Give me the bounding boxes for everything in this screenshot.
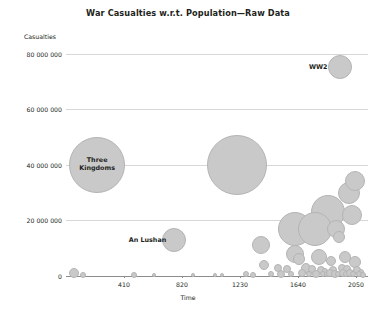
- x-tick-label: 1640: [290, 281, 306, 288]
- data-point-bubble[interactable]: [162, 228, 186, 252]
- data-point-bubble[interactable]: [288, 271, 294, 277]
- x-tick-mark: [182, 276, 183, 278]
- data-point-bubble[interactable]: [342, 205, 362, 225]
- data-point-bubble[interactable]: [326, 256, 336, 266]
- data-point-bubble[interactable]: [131, 272, 137, 278]
- data-point-bubble[interactable]: [69, 137, 125, 193]
- y-tick-label: 60 000 000: [0, 106, 62, 113]
- x-tick-label: 2050: [348, 281, 364, 288]
- data-point-bubble[interactable]: [250, 272, 256, 278]
- data-point-bubble[interactable]: [328, 55, 352, 79]
- y-tick-label: 0: [0, 273, 62, 280]
- data-point-bubble[interactable]: [298, 269, 306, 277]
- data-point-bubble[interactable]: [360, 272, 366, 278]
- y-tick-label: 40 000 000: [0, 161, 62, 168]
- data-point-bubble[interactable]: [252, 236, 270, 254]
- gridline: [66, 54, 368, 55]
- data-point-bubble[interactable]: [220, 273, 224, 277]
- data-point-bubble[interactable]: [69, 268, 79, 278]
- chart-title: War Casualties w.r.t. Population—Raw Dat…: [0, 8, 376, 18]
- y-axis-title: Casualties: [24, 33, 56, 40]
- x-tick-mark: [124, 276, 125, 278]
- data-point-bubble[interactable]: [333, 231, 345, 243]
- data-point-bubble[interactable]: [152, 273, 156, 277]
- data-point-bubble[interactable]: [213, 273, 217, 277]
- data-point-bubble[interactable]: [345, 171, 365, 191]
- data-point-bubble[interactable]: [268, 271, 274, 277]
- chart-container: War Casualties w.r.t. Population—Raw Dat…: [0, 0, 376, 310]
- data-point-bubble[interactable]: [207, 135, 267, 195]
- bubble-annotation-label: WW2: [309, 63, 328, 72]
- data-point-bubble[interactable]: [243, 271, 249, 277]
- data-point-bubble[interactable]: [191, 273, 195, 277]
- data-point-bubble[interactable]: [80, 272, 86, 278]
- plot-area: Three KingdomsAn LushanWW2: [66, 48, 368, 276]
- x-tick-label: 820: [176, 281, 188, 288]
- data-point-bubble[interactable]: [277, 270, 285, 278]
- y-tick-label: 80 000 000: [0, 50, 62, 57]
- x-axis-title: Time: [0, 294, 376, 301]
- data-point-bubble[interactable]: [259, 260, 269, 270]
- x-tick-mark: [240, 276, 241, 278]
- y-tick-label: 20 000 000: [0, 217, 62, 224]
- x-tick-label: 410: [118, 281, 130, 288]
- x-tick-label: 1230: [232, 281, 248, 288]
- gridline: [66, 109, 368, 110]
